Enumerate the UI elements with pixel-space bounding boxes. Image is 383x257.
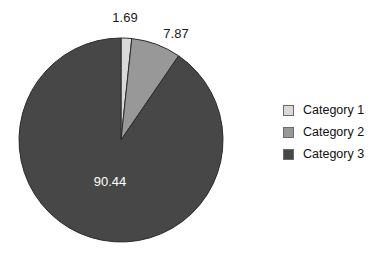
legend: Category 1 Category 2 Category 3 — [283, 99, 381, 165]
legend-item-category-1[interactable]: Category 1 — [283, 99, 381, 121]
legend-swatch-icon-category-3 — [283, 149, 294, 160]
legend-label-category-3: Category 3 — [303, 148, 364, 161]
data-label-category-2: 7.87 — [163, 26, 188, 41]
data-label-category-1: 1.69 — [112, 10, 137, 25]
legend-swatch-icon-category-1 — [283, 105, 294, 116]
legend-label-category-2: Category 2 — [303, 126, 364, 139]
legend-item-category-3[interactable]: Category 3 — [283, 143, 381, 165]
legend-item-category-2[interactable]: Category 2 — [283, 121, 381, 143]
legend-label-category-1: Category 1 — [303, 104, 364, 117]
legend-swatch-icon-category-2 — [283, 127, 294, 138]
data-label-category-3: 90.44 — [94, 174, 127, 189]
pie-slice-category-3[interactable] — [19, 38, 223, 242]
pie-slices — [19, 38, 223, 242]
pie-chart: 1.69 7.87 90.44 Category 1 Category 2 Ca… — [0, 0, 383, 257]
